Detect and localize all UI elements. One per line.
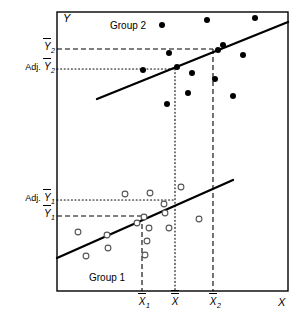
y-bar-2-tick: Y2: [10, 41, 55, 54]
adj-y-bar-1-tick: Adj. Y1: [0, 192, 55, 205]
adj-prefix: Adj.: [25, 62, 41, 72]
plot-frame: [57, 12, 288, 291]
x-symbol: X: [210, 296, 217, 307]
subscript-2: 2: [51, 67, 55, 74]
x-symbol: X: [139, 296, 146, 307]
adj-prefix: Adj.: [25, 193, 41, 203]
data-point: [83, 253, 89, 259]
data-point: [159, 22, 165, 28]
data-point: [166, 50, 172, 56]
grand-x-bar-tick: X: [167, 296, 183, 307]
data-point: [166, 225, 172, 231]
data-point: [220, 42, 226, 48]
data-point: [144, 238, 150, 244]
data-point: [141, 214, 147, 220]
data-point: [185, 90, 191, 96]
data-point: [164, 101, 170, 107]
x-bar-2-tick: X2: [205, 296, 225, 309]
data-point: [240, 52, 246, 58]
y-symbol: Y: [44, 61, 51, 72]
data-point: [178, 184, 184, 190]
data-point: [174, 64, 180, 70]
data-point: [75, 229, 81, 235]
data-point: [162, 210, 168, 216]
y-symbol: Y: [44, 192, 51, 203]
y-symbol: Y: [44, 41, 51, 52]
group1-label: Group 1: [89, 272, 125, 283]
y-axis-title: Y: [63, 12, 70, 24]
data-point: [212, 76, 218, 82]
data-point: [204, 17, 210, 23]
x-axis-title: X: [278, 296, 285, 308]
data-point: [122, 191, 128, 197]
adj-y-bar-2-tick: Adj. Y2: [0, 61, 55, 74]
data-point: [134, 220, 140, 226]
y-bar-1-tick: Y1: [10, 208, 55, 221]
subscript-2: 2: [217, 302, 221, 309]
data-point: [161, 201, 167, 207]
x-symbol: X: [172, 296, 179, 307]
x-bar-1-tick: X1: [134, 296, 154, 309]
subscript-1: 1: [51, 198, 55, 205]
subscript-2: 2: [51, 47, 55, 54]
data-point: [142, 252, 148, 258]
ancova-scatter-figure: Y X Y2 Adj. Y2 Adj. Y1 Y1 X1 X X2 Group …: [0, 0, 305, 329]
subscript-1: 1: [51, 214, 55, 221]
data-point: [104, 232, 110, 238]
group2-label: Group 2: [110, 20, 146, 31]
data-point: [146, 225, 152, 231]
data-point: [252, 15, 258, 21]
data-point: [230, 93, 236, 99]
y-symbol: Y: [44, 208, 51, 219]
data-point: [189, 70, 195, 76]
data-point: [215, 47, 221, 53]
data-point: [196, 216, 202, 222]
subscript-1: 1: [146, 302, 150, 309]
data-point: [140, 67, 146, 73]
data-point: [105, 245, 111, 251]
data-point: [147, 190, 153, 196]
